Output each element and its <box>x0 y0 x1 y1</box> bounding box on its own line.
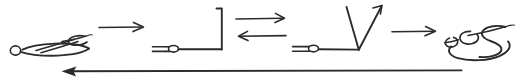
rod-with-vee-structure <box>293 5 383 51</box>
equilibrium-top-shaft <box>236 18 283 19</box>
return-arrow-shaft <box>66 70 462 71</box>
scribble-tail-flick <box>86 35 92 36</box>
forward-arrow-2 <box>392 27 436 36</box>
scribble-lower-sweep <box>21 49 90 56</box>
scheme-svg <box>0 0 522 82</box>
scribble-loop-structure-right <box>445 25 515 60</box>
equilibrium-bottom-shaft <box>240 36 287 37</box>
terminus-circle-icon <box>10 46 20 55</box>
vee-right-leg <box>359 6 382 50</box>
reaction-scheme-figure: Four hand-drawn structures connected lef… <box>0 0 522 82</box>
rod-with-bracket-structure <box>153 9 222 53</box>
rod2-oval-bead-icon <box>169 46 179 53</box>
forward-arrow-1 <box>99 22 144 31</box>
rod3-oval-bead-icon <box>309 45 319 52</box>
equilibrium-arrow-pair <box>236 13 286 40</box>
forward-arrow-2-shaft <box>392 31 434 32</box>
scribble-loop-structure-left <box>10 35 92 56</box>
scribble-r-tail-flick <box>505 25 515 27</box>
return-arrow-bottom <box>62 66 462 76</box>
vee-left-leg <box>347 7 359 50</box>
bracket-right-icon <box>217 9 222 50</box>
forward-arrow-1-shaft <box>99 27 142 28</box>
